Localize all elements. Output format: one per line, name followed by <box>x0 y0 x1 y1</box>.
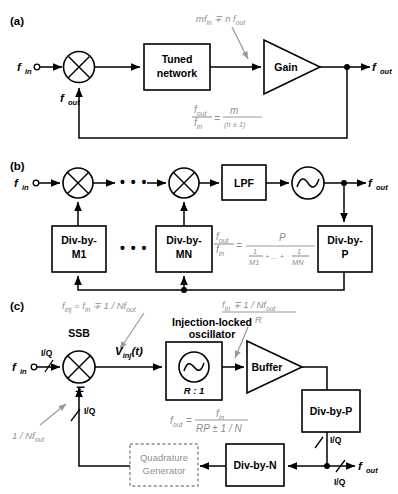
panel-b-label: (b) <box>10 160 25 172</box>
mixer-icon-b1 <box>63 168 93 198</box>
mixer-icon-a <box>64 52 95 83</box>
ilo-oscillator-icon <box>179 352 209 382</box>
ilo-title-line-2: oscillator <box>189 328 236 340</box>
panel-b-equation: fout fin = P 1 M1 + ... + 1 MN <box>214 231 315 267</box>
svg-text:MN: MN <box>292 258 304 267</box>
div-by-mn-label-1: Div-by- <box>166 234 202 246</box>
tuned-network-label-2: network <box>157 67 197 79</box>
svg-text:1: 1 <box>253 247 257 256</box>
svg-text:fin: fin <box>216 408 224 421</box>
quadrature-generator-label-2: Generator <box>143 465 186 476</box>
svg-text:RP ± 1 / N: RP ± 1 / N <box>196 423 242 434</box>
oscillator-icon-b <box>292 167 324 199</box>
quadrature-generator-label-1: Quadrature <box>140 452 188 463</box>
panel-b-output-sub: out <box>376 183 388 192</box>
vinj-label: Vinj(t) <box>115 345 143 360</box>
svg-text:fin: fin <box>216 244 224 257</box>
panel-b-ellipsis: • • • <box>120 174 147 190</box>
svg-text:+ ... +: + ... + <box>265 252 285 261</box>
panel-b-divider-ellipsis: • • • <box>120 240 147 256</box>
panel-a-annotation: mfin ∓ n fout <box>196 13 246 26</box>
panel-c-label: (c) <box>10 300 24 312</box>
panel-c-input-sub: in <box>20 367 27 376</box>
tuned-network-label-1: Tuned <box>162 53 193 65</box>
panel-a-feedback-label: f <box>60 92 65 104</box>
panel-a: (a) f in f out Tuned network <box>10 13 392 138</box>
mixer-icon-bN <box>169 168 199 198</box>
panel-a-equation: fout fin = m (n ± 1) <box>192 104 262 130</box>
div-by-m1-label-1: Div-by- <box>61 234 97 246</box>
panel-a-annotation-pointer <box>232 27 248 59</box>
ssb-mixer-icon <box>63 351 95 383</box>
iq-label-lo: I/Q <box>84 406 96 416</box>
panel-c-output-label: f <box>358 460 363 472</box>
input-port-icon <box>34 64 40 70</box>
div-by-n-label: Div-by-N <box>233 459 276 471</box>
panel-c-one-over-nfout-pointer <box>40 404 66 425</box>
ssb-label: SSB <box>68 327 90 339</box>
input-port-icon-c <box>31 364 37 370</box>
panel-a-output-sub: out <box>380 67 392 76</box>
panel-c-annotation-over-r: fin ∓ 1 / Nfout <box>222 299 276 312</box>
ilo-ratio-label: R : 1 <box>184 385 205 396</box>
svg-text:fout: fout <box>216 231 230 244</box>
svg-text:=: = <box>186 415 192 426</box>
feedback-path-a <box>79 67 347 138</box>
panel-a-input-label: f <box>17 61 22 73</box>
svg-text:fout: fout <box>170 415 184 428</box>
panel-a-input-sub: in <box>25 67 32 76</box>
div-by-p-label-2-b: P <box>341 248 348 260</box>
svg-text:=: = <box>236 240 242 251</box>
buffer-label: Buffer <box>252 361 283 373</box>
panel-a-output-label: f <box>372 61 377 73</box>
iq-slash-divp-out <box>315 437 323 448</box>
svg-text:fin: fin <box>194 117 202 130</box>
panel-b-input-sub: in <box>22 183 29 192</box>
svg-text:(n ± 1): (n ± 1) <box>224 120 246 129</box>
panel-c-annotation-finj: finj = fin ∓ 1 / Nfout <box>62 300 137 314</box>
div-by-p-label-1-b: Div-by- <box>327 234 363 246</box>
wire-qg-to-ssb <box>79 388 130 466</box>
panel-b-input-label: f <box>14 177 19 189</box>
panel-b: (b) f in • • • LPF <box>10 160 388 293</box>
svg-text:=: = <box>214 113 220 124</box>
panel-c-finj-pointer <box>120 313 144 349</box>
div-by-mn-label-2: MN <box>176 248 192 260</box>
lpf-label: LPF <box>234 177 254 189</box>
gain-label: Gain <box>274 61 297 73</box>
panel-c-input-label: f <box>12 361 17 373</box>
svg-text:fout: fout <box>194 104 208 117</box>
panel-a-label: (a) <box>10 15 24 27</box>
div-by-p-label-c: Div-by-P <box>310 405 353 417</box>
panel-b-output-label: f <box>368 177 373 189</box>
feedback-bus-b <box>78 272 344 290</box>
svg-text:M1: M1 <box>249 258 259 267</box>
input-port-icon-b <box>33 180 39 186</box>
svg-text:1: 1 <box>297 247 301 256</box>
figure-container: (a) f in f out Tuned network <box>0 0 398 494</box>
wire-buffer-to-divp-c <box>302 367 327 390</box>
panel-c-output-sub: out <box>366 466 378 475</box>
bus-node-b <box>181 287 187 293</box>
panel-c-equation: fout = fin RP ± 1 / N <box>170 408 248 434</box>
svg-text:P: P <box>279 232 286 243</box>
div-by-m1-label-2: M1 <box>72 248 87 260</box>
svg-text:R: R <box>255 314 262 325</box>
svg-text:m: m <box>230 105 238 116</box>
ilo-title-line-1: Injection-locked <box>172 316 252 328</box>
panel-c-over-r-pointer <box>235 327 248 358</box>
block-diagram-svg: (a) f in f out Tuned network <box>0 0 398 494</box>
iq-label-divp-out: I/Q <box>330 435 342 445</box>
panel-c: (c) finj = fin ∓ 1 / Nfout fin ∓ 1 / Nfo… <box>10 299 378 487</box>
iq-label-fout: I/Q <box>334 477 346 487</box>
iq-label-input: I/Q <box>41 348 53 358</box>
panel-c-annotation-one-over-nfout: 1 / Nfout <box>12 430 45 443</box>
iq-slash-input <box>45 360 53 372</box>
